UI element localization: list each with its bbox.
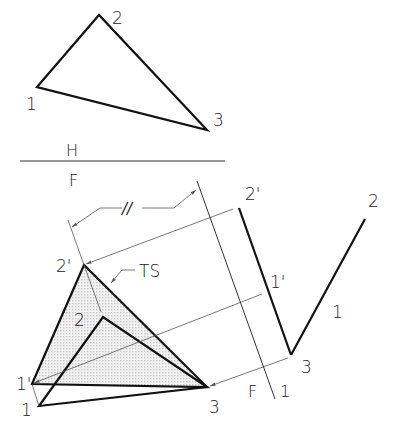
dimension-leader: [72, 208, 122, 227]
ts-label: TS: [139, 261, 160, 281]
right-view-line: [291, 219, 365, 355]
ts-label-2prime: 2': [56, 256, 72, 276]
fold-label-h: H: [66, 141, 78, 160]
top-label-3: 3: [213, 110, 224, 130]
ts-leader: [111, 270, 135, 283]
front-label-1: 1: [21, 400, 32, 420]
right-label-2: 2: [368, 191, 379, 211]
right-label-1: 1: [332, 302, 343, 322]
edge-label-3: 3: [301, 357, 312, 377]
dimension-leader-right: [142, 190, 196, 208]
top-label-2: 2: [112, 8, 123, 28]
fold-line-f1: [197, 181, 275, 399]
fold-label-1-aux: 1: [280, 382, 290, 401]
connector-1prime-1: [32, 384, 39, 406]
front-label-2: 2: [74, 310, 85, 330]
ts-label-1prime: 1': [16, 374, 32, 394]
fold-label-f-aux: F: [248, 382, 257, 401]
projection-2prime: [86, 209, 233, 264]
edge-label-1prime: 1': [270, 272, 286, 292]
top-label-1: 1: [26, 94, 37, 114]
top-view-triangle: [37, 15, 207, 130]
drawing-canvas: 1 2 3 H F F 1 // TS 2' 1' 3 2 1 2' 1' 2 …: [0, 0, 398, 424]
dimension-symbol: //: [120, 200, 134, 218]
front-label-3: 3: [209, 397, 220, 417]
fold-label-f: F: [69, 171, 78, 190]
edge-label-2prime: 2': [245, 184, 261, 204]
